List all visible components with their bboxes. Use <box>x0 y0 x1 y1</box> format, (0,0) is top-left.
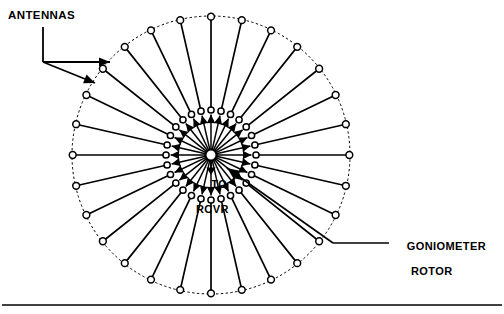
goniometer-rotor-label: GONIOMETER ROTOR <box>393 228 486 302</box>
diagram-canvas: ANTENNAS GONIOMETER ROTOR TO RCVR <box>0 0 504 314</box>
to-receiver-label-line1: TO <box>211 178 227 190</box>
to-receiver-label-line2: RCVR <box>196 203 229 215</box>
to-receiver-label: TO RCVR <box>196 166 229 240</box>
goniometer-rotor-label-line1: GONIOMETER <box>407 240 486 252</box>
goniometer-rotor-label-line2: ROTOR <box>393 265 486 277</box>
antennas-label: ANTENNAS <box>8 9 75 22</box>
